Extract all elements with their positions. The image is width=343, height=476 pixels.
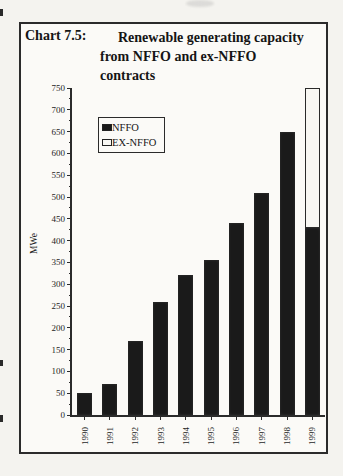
- y-major-tick: [67, 218, 72, 219]
- x-tick-label: 1992: [130, 421, 140, 451]
- y-minor-tick: [69, 120, 72, 121]
- x-tick: [261, 417, 262, 420]
- x-tick-label: 1994: [181, 421, 191, 451]
- x-tick: [211, 417, 212, 420]
- y-major-tick: [67, 175, 72, 176]
- y-minor-tick: [69, 251, 72, 252]
- bar-nffo: [102, 384, 117, 415]
- x-tick: [236, 417, 237, 420]
- x-tick-label: 1993: [156, 421, 166, 451]
- bar-nffo: [254, 193, 269, 415]
- y-tick-label: 300: [42, 279, 65, 289]
- y-minor-tick: [69, 338, 72, 339]
- y-tick-label: 500: [42, 192, 65, 202]
- ex-nffo-swatch-icon: [102, 139, 112, 146]
- y-major-tick: [67, 262, 72, 263]
- scan-artifact: [0, 415, 3, 422]
- y-tick-label: 250: [42, 301, 65, 311]
- x-tick-label: 1991: [105, 421, 115, 451]
- y-minor-tick: [69, 273, 72, 274]
- y-tick-label: 750: [42, 83, 65, 93]
- x-tick-label: 1998: [282, 421, 292, 451]
- chart-number-label: Chart 7.5:: [25, 28, 86, 44]
- y-major-tick: [67, 197, 72, 198]
- x-tick: [185, 417, 186, 420]
- y-major-tick: [67, 240, 72, 241]
- legend-item-ex-nffo: EX-NFFO: [102, 135, 164, 150]
- y-minor-tick: [69, 142, 72, 143]
- legend-item-nffo: NFFO: [102, 120, 164, 135]
- y-major-tick: [67, 415, 72, 416]
- y-major-tick: [67, 393, 72, 394]
- x-tick: [160, 417, 161, 420]
- x-tick-label: 1996: [231, 421, 241, 451]
- scan-smudge: [186, 0, 214, 7]
- y-minor-tick: [69, 382, 72, 383]
- y-minor-tick: [69, 229, 72, 230]
- legend-label-ex-nffo: EX-NFFO: [112, 137, 156, 148]
- y-minor-tick: [69, 207, 72, 208]
- y-tick-label: 100: [42, 366, 65, 376]
- y-tick-label: 50: [42, 388, 65, 398]
- x-tick-label: 1990: [80, 421, 90, 451]
- y-minor-tick: [69, 98, 72, 99]
- chart-title-text: Renewable generating capacity from NFFO …: [100, 28, 326, 85]
- title-line-1: Renewable generating capacity: [100, 28, 326, 47]
- nffo-swatch-icon: [102, 124, 112, 131]
- y-major-tick: [67, 131, 72, 132]
- bar-nffo: [204, 260, 219, 415]
- y-tick-label: 400: [42, 236, 65, 246]
- y-tick-label: 550: [42, 170, 65, 180]
- legend-label-nffo: NFFO: [112, 122, 139, 133]
- chart-frame: Chart 7.5: Renewable generating capacity…: [19, 22, 328, 454]
- y-major-tick: [67, 306, 72, 307]
- chart-title: Chart 7.5: Renewable generating capacity…: [21, 28, 326, 85]
- y-major-tick: [67, 284, 72, 285]
- x-tick-label: 1999: [307, 421, 317, 451]
- bar-ex-nffo: [305, 88, 320, 228]
- x-tick: [312, 417, 313, 420]
- y-major-tick: [67, 349, 72, 350]
- y-tick-label: 0: [42, 410, 65, 420]
- bar-nffo: [280, 132, 295, 415]
- y-major-tick: [67, 371, 72, 372]
- bar-nffo: [77, 393, 92, 415]
- x-tick-label: 1995: [206, 421, 216, 451]
- y-minor-tick: [69, 186, 72, 187]
- x-tick: [84, 417, 85, 420]
- x-tick: [109, 417, 110, 420]
- scan-artifact: [0, 360, 3, 366]
- bar-nffo: [153, 302, 168, 415]
- y-major-tick: [67, 88, 72, 89]
- y-minor-tick: [69, 360, 72, 361]
- y-tick-label: 200: [42, 323, 65, 333]
- x-tick-label: 1997: [257, 421, 267, 451]
- y-minor-tick: [69, 316, 72, 317]
- y-minor-tick: [69, 295, 72, 296]
- x-tick: [135, 417, 136, 420]
- y-major-tick: [67, 327, 72, 328]
- y-major-tick: [67, 109, 72, 110]
- y-tick-label: 150: [42, 345, 65, 355]
- x-tick: [287, 417, 288, 420]
- y-tick-label: 450: [42, 214, 65, 224]
- y-tick-label: 600: [42, 148, 65, 158]
- y-axis-label: MWe: [29, 228, 40, 260]
- bar-nffo: [229, 223, 244, 415]
- bar-nffo: [128, 341, 143, 415]
- bar-nffo: [305, 228, 320, 415]
- y-tick-label: 650: [42, 127, 65, 137]
- title-line-2: from NFFO and ex-NFFO: [100, 47, 326, 66]
- scan-artifact: [0, 9, 3, 16]
- legend: NFFO EX-NFFO: [98, 117, 165, 153]
- y-minor-tick: [69, 404, 72, 405]
- y-tick-label: 700: [42, 105, 65, 115]
- y-major-tick: [67, 153, 72, 154]
- y-minor-tick: [69, 164, 72, 165]
- scanned-page: Chart 7.5: Renewable generating capacity…: [0, 0, 343, 476]
- y-tick-label: 350: [42, 257, 65, 267]
- title-line-3: contracts: [100, 66, 326, 85]
- bar-nffo: [178, 275, 193, 415]
